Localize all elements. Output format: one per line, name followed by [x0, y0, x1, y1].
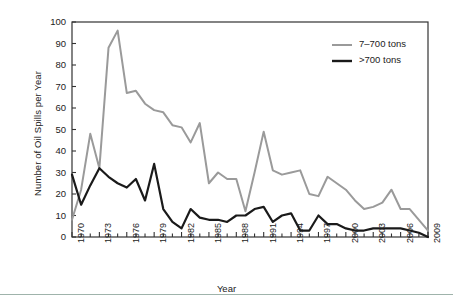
legend-label-1: 7–700 tons	[359, 38, 406, 49]
y-tick-label: 100	[28, 16, 66, 27]
x-tick-label: 1997	[322, 223, 332, 243]
x-tick-label: 1994	[295, 223, 305, 243]
y-tick-label: 90	[28, 38, 66, 49]
chart-legend-swatches	[332, 45, 352, 61]
y-tick-label: 0	[28, 231, 66, 242]
series-line-2	[72, 164, 428, 237]
x-tick-label: 1979	[158, 223, 168, 243]
figure-container: 0102030405060708090100 19701973197619791…	[0, 0, 453, 305]
x-tick-label: 2003	[377, 223, 387, 243]
x-tick-label: 2009	[432, 223, 442, 243]
x-tick-label: 2006	[405, 223, 415, 243]
x-tick-label: 1991	[268, 223, 278, 243]
legend-label-2: >700 tons	[359, 54, 401, 65]
x-axis-title: Year	[0, 283, 453, 294]
footer-divider	[0, 294, 453, 295]
y-axis-title: Number of Oil Spills per Year	[32, 49, 43, 219]
x-tick-label: 1988	[240, 223, 250, 243]
x-tick-label: 1973	[103, 223, 113, 243]
x-tick-label: 1982	[186, 223, 196, 243]
x-tick-label: 1970	[76, 223, 86, 243]
x-tick-label: 2000	[350, 223, 360, 243]
x-tick-label: 1976	[131, 223, 141, 243]
x-tick-label: 1985	[213, 223, 223, 243]
